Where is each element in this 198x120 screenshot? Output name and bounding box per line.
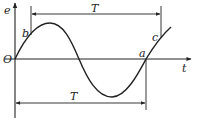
period-label-top: T [91, 2, 100, 15]
origin-label: O [3, 53, 12, 66]
point-b-label: b [22, 27, 29, 40]
point-a-label: a [139, 47, 146, 60]
e-axis-label: e [4, 4, 11, 17]
sine-wave-diagram: e t O b c a T T [0, 0, 198, 120]
point-c-label: c [152, 31, 158, 44]
sine-curve [15, 23, 171, 97]
t-axis-label: t [182, 62, 187, 75]
period-label-bottom: T [70, 90, 79, 103]
